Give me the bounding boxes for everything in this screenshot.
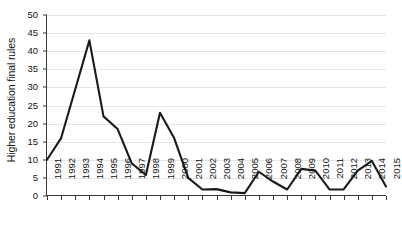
x-tick-mark-2006: [259, 196, 260, 200]
x-tick-mark-2003: [217, 196, 218, 200]
y-tick-label-10: 10: [27, 155, 38, 165]
x-tick-mark-2009: [301, 196, 302, 200]
x-tick-mark-1992: [61, 196, 62, 200]
x-tick-mark-2004: [231, 196, 232, 200]
x-tick-mark-2012: [344, 196, 345, 200]
y-tick-label-0: 0: [33, 191, 38, 201]
x-tick-mark-2011: [330, 196, 331, 200]
x-tick-mark-2015: [386, 196, 387, 200]
x-tick-mark-2013: [358, 196, 359, 200]
x-tick-mark-2010: [315, 196, 316, 200]
y-tick-label-50: 50: [27, 10, 38, 20]
x-tick-mark-2014: [372, 196, 373, 200]
x-tick-mark-2008: [287, 196, 288, 200]
y-tick-label-45: 45: [27, 28, 38, 38]
y-tick-label-30: 30: [27, 83, 38, 93]
x-tick-mark-1998: [146, 196, 147, 200]
x-tick-mark-1991: [47, 196, 48, 200]
x-tick-mark-1999: [160, 196, 161, 200]
y-tick-label-15: 15: [27, 137, 38, 147]
x-tick-mark-2001: [188, 196, 189, 200]
x-tick-mark-1997: [132, 196, 133, 200]
x-tick-label-2015: 2015: [391, 158, 402, 202]
x-tick-mark-1994: [89, 196, 90, 200]
x-tick-mark-2002: [202, 196, 203, 200]
x-tick-mark-2005: [245, 196, 246, 200]
x-tick-mark-1993: [75, 196, 76, 200]
x-tick-mark-2007: [273, 196, 274, 200]
y-tick-label-25: 25: [27, 101, 38, 111]
y-tick-label-20: 20: [27, 119, 38, 129]
x-tick-mark-1995: [104, 196, 105, 200]
y-axis-tick-group: 05101520253035404550: [0, 0, 47, 196]
y-tick-label-5: 5: [33, 173, 38, 183]
y-tick-label-40: 40: [27, 46, 38, 56]
x-tick-mark-2000: [174, 196, 175, 200]
y-tick-label-35: 35: [27, 65, 38, 75]
x-tick-mark-1996: [118, 196, 119, 200]
